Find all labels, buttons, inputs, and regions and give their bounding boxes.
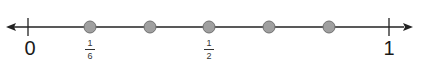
denominator: 6 xyxy=(83,51,97,61)
label-one-half: 1 2 xyxy=(202,38,216,61)
right-arrow-icon xyxy=(403,23,413,31)
numerator: 1 xyxy=(202,38,216,48)
point-5-6 xyxy=(323,21,335,33)
point-1-6 xyxy=(84,21,96,33)
number-line xyxy=(0,0,424,73)
point-1-2 xyxy=(203,21,215,33)
label-one-sixth: 1 6 xyxy=(83,38,97,61)
denominator: 2 xyxy=(202,51,216,61)
numerator: 1 xyxy=(83,38,97,48)
point-2-6 xyxy=(144,21,156,33)
label-one: 1 xyxy=(379,37,399,60)
point-4-6 xyxy=(263,21,275,33)
label-zero: 0 xyxy=(20,37,40,60)
